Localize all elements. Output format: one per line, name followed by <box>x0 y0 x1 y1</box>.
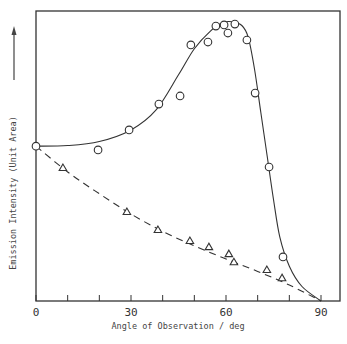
circle-marker-icon <box>187 41 195 49</box>
circles-fit-curve <box>36 21 321 301</box>
circle-marker-icon <box>231 20 239 28</box>
triangle-marker-icon <box>186 237 194 244</box>
circle-marker-icon <box>265 163 273 171</box>
y-axis-label: Emission Intensity (Unit Area) <box>8 116 18 270</box>
y-axis-arrow-icon <box>12 26 17 80</box>
circle-marker-icon <box>251 89 259 97</box>
triangle-marker-icon <box>225 250 233 257</box>
triangle-marker-icon <box>230 258 238 265</box>
circle-marker-icon <box>212 22 220 30</box>
x-tick-label: 30 <box>124 306 137 319</box>
x-axis-tick-labels: 0306090 <box>33 306 328 319</box>
fit-curves <box>36 21 321 301</box>
x-tick-label: 90 <box>314 306 327 319</box>
x-axis-label: Angle of Observation / deg <box>111 321 244 331</box>
x-axis-ticks <box>36 295 321 301</box>
plot-border <box>36 11 340 301</box>
chart: 0306090 Angle of Observation / deg Emiss… <box>0 0 347 344</box>
circle-marker-icon <box>279 253 287 261</box>
data-markers <box>32 20 287 280</box>
triangle-marker-icon <box>59 164 66 171</box>
plot-frame <box>36 11 340 301</box>
circle-marker-icon <box>204 38 212 46</box>
circle-marker-icon <box>220 21 228 29</box>
circle-marker-icon <box>176 92 184 100</box>
circle-marker-icon <box>94 146 102 154</box>
circle-marker-icon <box>224 29 232 37</box>
circle-marker-icon <box>155 100 163 108</box>
triangles-fit-curve <box>36 146 321 301</box>
x-tick-label: 60 <box>219 306 232 319</box>
circle-marker-icon <box>125 126 133 134</box>
triangle-marker-icon <box>205 243 213 250</box>
circle-marker-icon <box>32 142 40 150</box>
x-tick-label: 0 <box>33 306 40 319</box>
triangle-marker-icon <box>263 266 271 273</box>
circle-marker-icon <box>243 36 251 44</box>
triangle-marker-icon <box>123 208 131 215</box>
triangle-marker-icon <box>278 274 286 281</box>
